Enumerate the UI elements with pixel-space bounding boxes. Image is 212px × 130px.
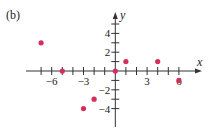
y-tick-label: 4: [105, 27, 111, 39]
x-axis-label: x: [196, 55, 203, 69]
data-point: [123, 59, 128, 64]
data-point: [39, 40, 44, 45]
x-tick-label: −3: [78, 75, 90, 87]
scatter-plot: xy−6−33642−2−4: [0, 0, 212, 130]
data-point: [60, 68, 65, 73]
x-tick-label: 3: [144, 75, 150, 87]
y-axis-arrow-icon: [113, 12, 118, 19]
data-point: [113, 68, 118, 73]
y-axis-label: y: [119, 8, 126, 22]
y-tick-label: 2: [105, 46, 111, 58]
data-point: [176, 78, 181, 83]
x-axis-arrow-icon: [195, 69, 202, 74]
x-tick-label: −6: [46, 75, 58, 87]
y-tick-label: −4: [99, 103, 111, 115]
data-point: [81, 106, 86, 111]
data-point: [155, 59, 160, 64]
data-point: [92, 97, 97, 102]
y-tick-label: −2: [99, 84, 111, 96]
